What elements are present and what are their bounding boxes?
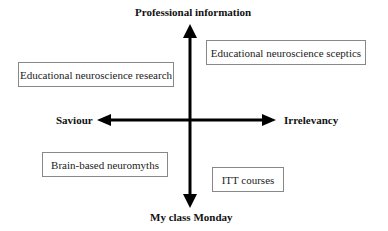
axis-label-right: Irrelevancy <box>284 114 338 126</box>
axis-label-left: Saviour <box>56 114 93 126</box>
box-educational-neuroscience-research: Educational neuroscience research <box>18 62 174 87</box>
axis-label-bottom: My class Monday <box>150 211 233 223</box>
box-brain-based-neuromyths: Brain-based neuromyths <box>42 152 168 177</box>
horizontal-axis-arrow <box>97 114 276 126</box>
box-itt-courses: ITT courses <box>212 167 284 192</box>
vertical-axis-arrow <box>183 24 197 208</box>
box-educational-neuroscience-sceptics: Educational neuroscience sceptics <box>206 40 366 65</box>
axis-label-top: Professional information <box>135 6 251 18</box>
